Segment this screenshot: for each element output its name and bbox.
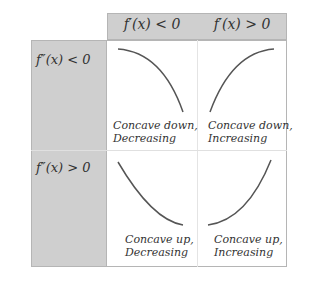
caption-concave-down-increasing: Concave down,Increasing [208, 119, 293, 145]
row-header-concave-down: f″(x) < 0 [36, 52, 91, 67]
column-header-increasing: f′(x) > 0 [197, 16, 287, 32]
row-header-column [31, 40, 107, 267]
caption-concave-up-increasing: Concave up,Increasing [214, 233, 283, 259]
row-header-concave-up: f″(x) > 0 [36, 160, 91, 175]
caption-concave-up-decreasing: Concave up,Decreasing [125, 233, 194, 259]
caption-concave-down-decreasing: Concave down,Decreasing [113, 119, 198, 145]
column-header-decreasing: f′(x) < 0 [107, 16, 197, 32]
